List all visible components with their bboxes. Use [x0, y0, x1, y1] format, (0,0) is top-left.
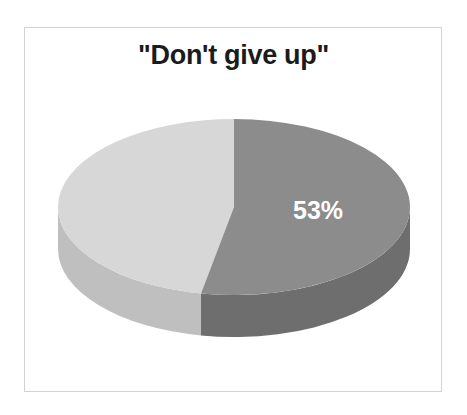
- pie-chart: 53%: [0, 0, 467, 415]
- pie-chart-svg: 53%: [0, 0, 467, 415]
- pie-slice-label-53: 53%: [293, 196, 343, 224]
- pie-top-faces: [58, 119, 410, 295]
- chart-canvas: "Don't give up" 53%: [0, 0, 467, 415]
